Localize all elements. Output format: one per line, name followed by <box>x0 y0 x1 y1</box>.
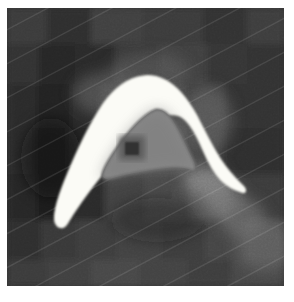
dark-focal-spot[interactable] <box>125 142 139 155</box>
grayscale-image-canvas[interactable] <box>7 8 284 286</box>
segmentation-overlay-svg[interactable] <box>7 8 284 286</box>
image-viewer: Pixelated grayscale image with a bright … <box>0 0 294 302</box>
